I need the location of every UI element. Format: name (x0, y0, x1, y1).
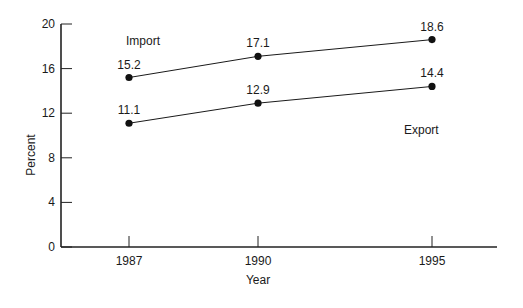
x-axis-title: Year (246, 273, 270, 287)
x-tick-label: 1995 (419, 254, 446, 268)
data-label: 12.9 (246, 83, 270, 97)
series-import: 15.217.118.6 (117, 20, 444, 82)
y-tick-label: 20 (42, 17, 56, 31)
y-tick-label: 16 (42, 62, 56, 76)
series-line (129, 86, 432, 123)
y-tick-label: 4 (48, 195, 55, 209)
data-label: 15.2 (117, 58, 141, 72)
data-point-marker (254, 100, 261, 107)
data-label: 14.4 (420, 66, 444, 80)
data-point-marker (125, 120, 132, 127)
data-point-marker (428, 36, 435, 43)
data-point-marker (254, 53, 261, 60)
data-label: 18.6 (420, 20, 444, 34)
data-label: 11.1 (118, 103, 141, 117)
series-label-import: Import (126, 34, 161, 48)
data-label: 17.1 (246, 36, 270, 50)
data-point-marker (428, 83, 435, 90)
y-tick-label: 0 (48, 240, 55, 254)
series-line (129, 40, 432, 78)
data-point-marker (125, 74, 132, 81)
x-tick-label: 1987 (116, 254, 143, 268)
series-export: 11.112.914.4 (118, 66, 444, 126)
series-group: 15.217.118.611.112.914.4ImportExport (117, 20, 444, 137)
y-tick-label: 8 (48, 151, 55, 165)
x-tick-label: 1990 (245, 254, 272, 268)
y-axis-title: Percent (24, 134, 38, 176)
y-tick-label: 12 (42, 106, 56, 120)
line-chart: 048121620198719901995YearPercent 15.217.… (0, 0, 523, 308)
series-label-export: Export (404, 123, 439, 137)
